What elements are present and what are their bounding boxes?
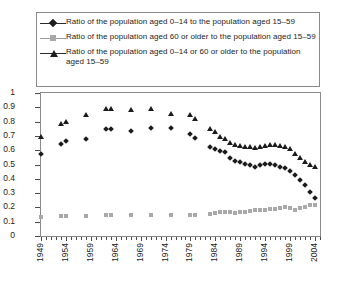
- x-axis-minor-tick: [51, 237, 52, 240]
- x-axis-minor-tick: [320, 237, 321, 240]
- x-axis-minor-tick: [295, 237, 296, 240]
- x-axis-major-tick: [166, 237, 167, 241]
- x-axis-major-tick: [66, 237, 67, 241]
- x-axis-minor-tick: [305, 237, 306, 240]
- x-axis-minor-tick: [161, 237, 162, 240]
- x-axis-tick-label: 1984: [210, 243, 219, 262]
- x-axis-major-tick: [215, 237, 216, 241]
- x-axis-minor-tick: [181, 237, 182, 240]
- x-axis-minor-tick: [176, 237, 177, 240]
- x-axis-major-tick: [265, 237, 266, 241]
- x-axis-minor-tick: [275, 237, 276, 240]
- x-axis-minor-tick: [46, 237, 47, 240]
- x-axis-minor-tick: [81, 237, 82, 240]
- x-axis-tick-label: 1989: [235, 243, 244, 262]
- x-axis-major-tick: [240, 237, 241, 241]
- x-axis-minor-tick: [121, 237, 122, 240]
- x-axis-minor-tick: [151, 237, 152, 240]
- x-axis-major-tick: [141, 237, 142, 241]
- x-axis-tick-label: 1994: [260, 243, 269, 262]
- x-axis-minor-tick: [260, 237, 261, 240]
- x-axis-minor-tick: [56, 237, 57, 240]
- x-axis-major-tick: [315, 237, 316, 241]
- x-axis-minor-tick: [280, 237, 281, 240]
- x-axis-minor-tick: [71, 237, 72, 240]
- x-axis-minor-tick: [200, 237, 201, 240]
- x-axis-minor-tick: [310, 237, 311, 240]
- x-axis-minor-tick: [101, 237, 102, 240]
- x-axis-minor-tick: [111, 237, 112, 240]
- x-axis-minor-tick: [96, 237, 97, 240]
- x-axis-major-tick: [116, 237, 117, 241]
- x-axis-tick-label: 1974: [161, 243, 170, 262]
- x-axis-tick-label: 1964: [111, 243, 120, 262]
- x-axis-major-tick: [290, 237, 291, 241]
- x-axis-minor-tick: [250, 237, 251, 240]
- x-axis-minor-tick: [126, 237, 127, 240]
- x-axis-minor-tick: [300, 237, 301, 240]
- x-axis-minor-tick: [76, 237, 77, 240]
- x-axis-minor-tick: [61, 237, 62, 240]
- x-axis-major-tick: [91, 237, 92, 241]
- x-axis-major-tick: [41, 237, 42, 241]
- x-axis-tick-label: 1999: [285, 243, 294, 262]
- x-axis-tick-label: 1979: [185, 243, 194, 262]
- chart-figure: Ratio of the population aged 0–14 to the…: [0, 0, 339, 289]
- x-axis-minor-tick: [156, 237, 157, 240]
- x-axis-tick-label: 1954: [61, 243, 70, 262]
- x-axis-minor-tick: [210, 237, 211, 240]
- x-axis-minor-tick: [131, 237, 132, 240]
- x-axis-minor-tick: [285, 237, 286, 240]
- x-axis-minor-tick: [171, 237, 172, 240]
- x-axis-tick-label: 2004: [310, 243, 319, 262]
- x-axis-minor-tick: [245, 237, 246, 240]
- x-axis-minor-tick: [106, 237, 107, 240]
- x-axis-minor-tick: [235, 237, 236, 240]
- x-axis: 1949195419591964196919741979198419891994…: [0, 0, 339, 289]
- x-axis-minor-tick: [146, 237, 147, 240]
- x-axis-tick-label: 1949: [36, 243, 45, 262]
- x-axis-minor-tick: [185, 237, 186, 240]
- x-axis-minor-tick: [136, 237, 137, 240]
- x-axis-major-tick: [190, 237, 191, 241]
- x-axis-minor-tick: [220, 237, 221, 240]
- x-axis-minor-tick: [205, 237, 206, 240]
- x-axis-minor-tick: [270, 237, 271, 240]
- x-axis-minor-tick: [195, 237, 196, 240]
- x-axis-minor-tick: [86, 237, 87, 240]
- x-axis-minor-tick: [230, 237, 231, 240]
- x-axis-tick-label: 1969: [136, 243, 145, 262]
- x-axis-minor-tick: [225, 237, 226, 240]
- x-axis-tick-label: 1959: [86, 243, 95, 262]
- x-axis-minor-tick: [255, 237, 256, 240]
